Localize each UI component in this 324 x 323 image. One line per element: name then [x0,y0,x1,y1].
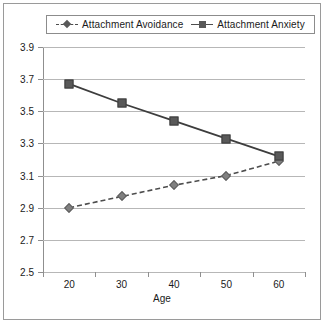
x-tick-label: 30 [107,279,137,290]
y-tick-mark [38,176,43,177]
legend-label-avoidance: Attachment Avoidance [82,19,183,30]
y-tick-mark [38,208,43,209]
y-tick-label: 2.9 [8,202,34,213]
legend-marker-square-icon [191,19,213,30]
y-tick-mark [38,111,43,112]
y-tick-label: 2.5 [8,267,34,278]
x-tick-label: 50 [211,279,241,290]
y-tick-mark [38,143,43,144]
x-tick-label: 60 [264,279,294,290]
y-tick-mark [38,240,43,241]
x-tick-mark [43,272,44,277]
y-tick-label: 3.3 [8,138,34,149]
y-tick-label: 3.5 [8,106,34,117]
gridline [43,240,305,241]
legend-label-anxiety: Attachment Anxiety [217,19,304,30]
y-tick-mark [38,79,43,80]
chart-container: Attachment Avoidance Attachment Anxiety … [0,0,324,323]
x-tick-mark [200,272,201,277]
chart-legend: Attachment Avoidance Attachment Anxiety [46,15,315,34]
y-tick-label: 3.7 [8,74,34,85]
data-point-marker [274,152,283,161]
gridline [43,208,305,209]
x-tick-mark [95,272,96,277]
x-tick-mark [253,272,254,277]
data-point-marker [222,134,231,143]
x-tick-mark [305,272,306,277]
gridline [43,176,305,177]
data-point-marker [117,99,126,108]
gridline [43,272,305,273]
x-tick-mark [148,272,149,277]
gridline [43,143,305,144]
data-point-marker [65,79,74,88]
y-tick-label: 3.1 [8,170,34,181]
legend-marker-diamond-icon [56,19,78,30]
gridline [43,111,305,112]
x-tick-label: 20 [54,279,84,290]
x-tick-label: 40 [159,279,189,290]
gridline [43,47,305,48]
gridline [43,79,305,80]
y-tick-label: 3.9 [8,42,34,53]
y-tick-mark [38,47,43,48]
x-axis-title: Age [0,293,324,304]
legend-item-attachment-anxiety: Attachment Anxiety [191,19,304,30]
legend-item-attachment-avoidance: Attachment Avoidance [56,19,183,30]
y-tick-label: 2.7 [8,234,34,245]
data-point-marker [170,116,179,125]
